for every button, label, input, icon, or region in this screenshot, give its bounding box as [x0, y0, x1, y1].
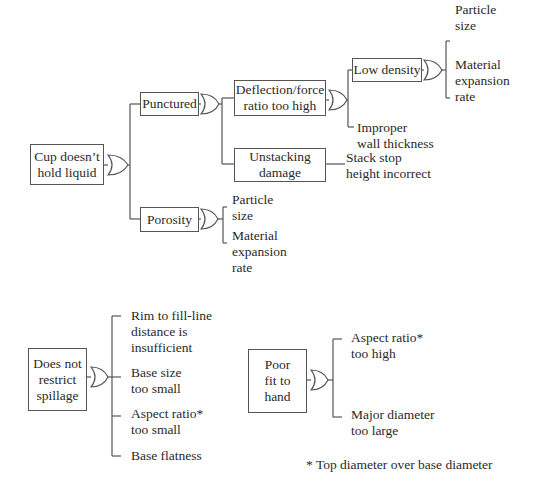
or-gate-icon — [306, 370, 333, 390]
cause-stack-stop: Stack stop height incorrect — [346, 150, 431, 182]
or-gate-icon — [198, 94, 222, 114]
cause-base-flatness: Base flatness — [131, 448, 202, 464]
cause-material-expansion-por: Material expansion rate — [232, 228, 287, 276]
cause-aspect-high: Aspect ratio* too high — [351, 330, 423, 362]
cause-material-expansion-ld: Material expansion rate — [455, 57, 510, 105]
event-box-low-density: Low density — [352, 58, 422, 82]
cause-rim-fill-line: Rim to fill-line distance is insufficien… — [131, 308, 212, 356]
cause-base-size: Base size too small — [131, 365, 182, 397]
or-gate-icon — [86, 367, 121, 387]
or-gate-icon — [325, 90, 348, 110]
event-box-unstacking: Unstacking damage — [234, 148, 326, 182]
event-box-punctured: Punctured — [140, 92, 199, 116]
cause-improper-wall: Improper wall thickness — [357, 120, 434, 152]
event-box-porosity: Porosity — [140, 207, 199, 232]
cause-aspect-small: Aspect ratio* too small — [131, 406, 203, 438]
event-box-poor-fit: Poor fit to hand — [248, 349, 307, 413]
event-box-deflection: Deflection/force ratio too high — [234, 80, 326, 116]
or-gate-icon — [198, 209, 223, 229]
cause-particle-size-por: Particle size — [232, 192, 273, 224]
footnote: * Top diameter over base diameter — [306, 457, 493, 473]
event-box-cup-doesnt-hold-liquid: Cup doesn’t hold liquid — [30, 144, 104, 185]
cause-particle-size-ld: Particle size — [455, 2, 496, 34]
or-gate-icon — [103, 155, 130, 175]
event-box-spillage: Does not restrict spillage — [28, 348, 87, 411]
or-gate-icon — [421, 60, 446, 80]
cause-major-diameter: Major diameter too large — [351, 407, 435, 439]
